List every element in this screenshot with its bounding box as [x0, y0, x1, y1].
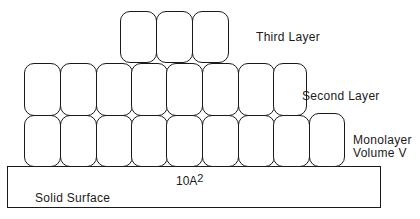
- monolayer-label-line1: Monolayer: [353, 133, 412, 147]
- molecule: [60, 63, 97, 116]
- molecule: [283, 113, 284, 114]
- second-layer-label: Second Layer: [302, 89, 380, 103]
- molecule: [166, 115, 203, 167]
- molecule: [238, 115, 275, 167]
- molecule: [131, 115, 168, 167]
- third-layer-label: Third Layer: [256, 30, 320, 44]
- molecule: [131, 63, 168, 116]
- molecule: [202, 63, 239, 116]
- monolayer-label-line2: Volume V: [353, 146, 407, 160]
- area-value: 10A: [176, 174, 197, 188]
- molecule: [24, 115, 61, 167]
- solid-surface-label: Solid Surface: [35, 191, 110, 205]
- molecule: [96, 115, 133, 167]
- molecule: [202, 115, 239, 167]
- area-exponent: 2: [197, 172, 203, 184]
- molecule: [120, 11, 157, 63]
- molecular-area-label: 10A2: [176, 174, 203, 188]
- adsorption-diagram: Third Layer Second Layer Monolayer Volum…: [0, 0, 420, 219]
- molecule: [24, 63, 61, 116]
- molecule: [156, 11, 193, 63]
- molecule: [166, 63, 203, 116]
- molecule: [238, 63, 275, 116]
- molecule: [192, 11, 229, 63]
- molecule: [273, 115, 310, 167]
- molecule: [309, 113, 345, 167]
- molecule: [96, 63, 133, 116]
- molecule: [60, 115, 97, 167]
